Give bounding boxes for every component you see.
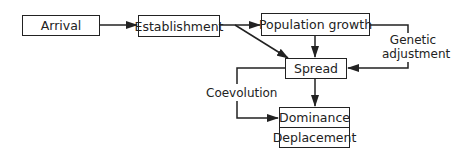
node-deplacement-label: Deplacement: [273, 130, 357, 145]
node-population-growth-label: Population growth: [259, 17, 372, 32]
node-population-growth: Population growth: [261, 13, 370, 36]
node-dominance: Dominance: [280, 108, 349, 127]
node-arrival-label: Arrival: [41, 18, 82, 33]
node-arrival: Arrival: [22, 15, 100, 36]
label-genetic-adjustment: Genetic adjustment: [382, 33, 444, 61]
arrow-coevolution-return: [237, 101, 278, 118]
arrow-coevolution: [237, 68, 285, 84]
node-spread-label: Spread: [294, 61, 338, 76]
arrow-genetic-adjustment-return: [348, 62, 408, 68]
node-dominance-label: Dominance: [279, 110, 350, 125]
label-genetic-line2: adjustment: [382, 47, 444, 61]
arrow-genetic-adjustment: [370, 25, 408, 33]
label-genetic-line1: Genetic: [382, 33, 444, 47]
node-establishment: Establishment: [138, 15, 220, 37]
node-spread: Spread: [285, 58, 347, 79]
label-coevolution-text: Coevolution: [206, 86, 277, 100]
node-establishment-label: Establishment: [135, 19, 224, 34]
node-deplacement: Deplacement: [280, 127, 349, 147]
node-dominance-deplacement: Dominance Deplacement: [279, 107, 350, 148]
label-coevolution: Coevolution: [206, 86, 268, 100]
